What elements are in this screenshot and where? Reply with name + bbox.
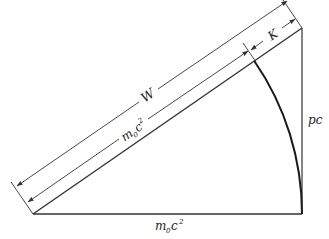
label-m0c2-hypotenuse: m 0 c 2	[118, 116, 151, 146]
label-W: W	[138, 85, 159, 106]
extension-line-arc	[243, 43, 256, 62]
svg-text:c: c	[171, 219, 178, 233]
energy-triangle-diagram: W K m 0 c 2 m 0 c 2 pc	[0, 0, 329, 239]
hypotenuse-line	[33, 28, 302, 214]
extension-line-right	[283, 0, 302, 28]
label-pc: pc	[308, 113, 323, 127]
label-K: K	[265, 26, 282, 44]
dimension-line-W-right	[158, 1, 287, 89]
dimension-line-m0c2-left	[28, 139, 119, 202]
extension-line-left	[11, 182, 33, 214]
svg-text:2: 2	[178, 218, 184, 226]
dimension-line-K-left	[251, 41, 263, 50]
rest-energy-arc	[254, 61, 302, 214]
svg-text:m: m	[155, 219, 166, 233]
dimension-line-W-left	[17, 102, 139, 186]
label-m0c2-base: m 0 c 2	[155, 218, 184, 235]
dimension-line-K-right	[282, 19, 295, 28]
